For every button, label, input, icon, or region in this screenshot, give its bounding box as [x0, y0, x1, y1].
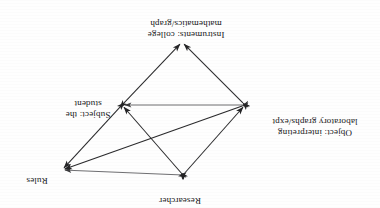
subject-line-1: Subject: the: [42, 109, 134, 120]
researcher-line-1: Researcher: [132, 195, 228, 206]
figure-canvas: Researcher Rules Object: interpreting la…: [0, 0, 380, 208]
edge-researcher-rules: [65, 170, 180, 175]
instruments-line-1: Instruments: college: [120, 29, 252, 40]
node-label-instruments: Instruments: college mathematics/graph: [120, 17, 252, 40]
node-label-rules: Rules: [6, 175, 68, 186]
object-line-1: Object: interpreting: [252, 127, 378, 138]
rotated-figure-group: Researcher Rules Object: interpreting la…: [0, 0, 380, 208]
node-label-researcher: Researcher: [132, 195, 228, 206]
rules-line-1: Rules: [6, 175, 68, 186]
node-label-object: Object: interpreting laboratory graphs/e…: [252, 115, 378, 138]
edge-object-instruments: [184, 44, 243, 103]
subject-line-2: student: [42, 97, 134, 108]
object-line-2: laboratory graphs/expt: [252, 115, 378, 126]
edge-researcher-object: [185, 107, 243, 173]
node-label-subject: Subject: the student: [42, 97, 134, 120]
instruments-line-2: mathematics/graph: [120, 17, 252, 28]
edge-subject-instruments: [124, 44, 180, 103]
